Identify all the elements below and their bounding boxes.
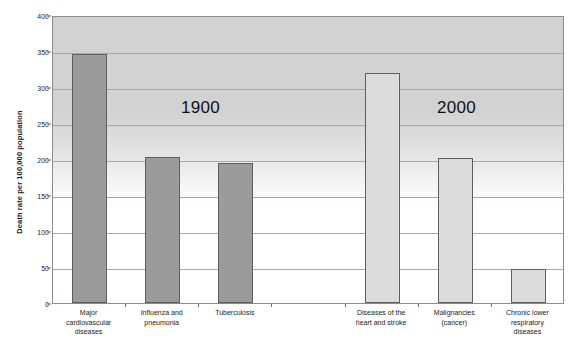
- y-tick-label: 300: [3, 85, 49, 92]
- y-tick-label: 0: [3, 301, 49, 308]
- x-tick-mark: [198, 304, 199, 307]
- x-category-label-line: respiratory: [491, 318, 564, 328]
- y-tick-label: 50: [3, 265, 49, 272]
- y-tick-mark: [47, 304, 51, 305]
- gridline: [53, 269, 563, 270]
- y-tick-mark: [47, 124, 51, 125]
- y-tick-mark: [47, 232, 51, 233]
- y-axis-ticks: 050100150200250300350400: [0, 16, 49, 304]
- x-tick-mark: [125, 304, 126, 307]
- y-tick-mark: [47, 268, 51, 269]
- bar: [365, 73, 400, 303]
- x-category-label-line: cardiovascular: [52, 318, 125, 328]
- y-tick-mark: [47, 52, 51, 53]
- y-tick-label: 100: [3, 229, 49, 236]
- x-category-label-line: Chronic lower: [491, 308, 564, 318]
- gridline: [53, 53, 563, 54]
- x-tick-mark: [345, 304, 346, 307]
- bar: [438, 158, 473, 303]
- y-tick-mark: [47, 88, 51, 89]
- gridline: [53, 161, 563, 162]
- bar: [72, 54, 107, 303]
- y-tick-label: 400: [3, 13, 49, 20]
- bar: [511, 269, 546, 303]
- x-category-label: Tuberculosis: [198, 308, 271, 318]
- x-category-label: Chronic lowerrespiratorydiseases: [491, 308, 564, 337]
- x-category-label: Majorcardiovasculardiseases: [52, 308, 125, 337]
- bar-chart: Death rate per 100,000 population 050100…: [0, 0, 578, 360]
- era-annotation-2000: 2000: [437, 98, 476, 118]
- gridline: [53, 197, 563, 198]
- y-tick-label: 200: [3, 157, 49, 164]
- gridline: [53, 233, 563, 234]
- x-category-label-line: diseases: [491, 327, 564, 337]
- bar: [145, 157, 180, 303]
- x-category-label-line: Tuberculosis: [198, 308, 271, 318]
- y-tick-mark: [47, 196, 51, 197]
- bar: [218, 163, 253, 303]
- x-tick-mark: [271, 304, 272, 307]
- x-category-label-line: (cancer): [418, 318, 491, 328]
- y-tick-label: 250: [3, 121, 49, 128]
- x-category-label-line: Diseases of the: [345, 308, 418, 318]
- x-category-label-line: pneumonia: [125, 318, 198, 328]
- x-category-label: Malignancies(cancer): [418, 308, 491, 327]
- y-tick-label: 350: [3, 49, 49, 56]
- x-category-label-line: Malignancies: [418, 308, 491, 318]
- x-tick-mark: [418, 304, 419, 307]
- x-category-label-line: diseases: [52, 327, 125, 337]
- x-category-label-line: heart and stroke: [345, 318, 418, 328]
- y-tick-mark: [47, 160, 51, 161]
- gridline: [53, 125, 563, 126]
- gridline: [53, 89, 563, 90]
- x-category-label: Influenza andpneumonia: [125, 308, 198, 327]
- x-axis-labels: MajorcardiovasculardiseasesInfluenza and…: [52, 308, 564, 358]
- x-category-label: Diseases of theheart and stroke: [345, 308, 418, 327]
- x-category-label-line: Influenza and: [125, 308, 198, 318]
- era-annotation-1900: 1900: [181, 98, 220, 118]
- y-tick-label: 150: [3, 193, 49, 200]
- plot-area: 19002000: [52, 16, 564, 304]
- x-category-label-line: Major: [52, 308, 125, 318]
- x-tick-mark: [491, 304, 492, 307]
- y-tick-mark: [47, 16, 51, 17]
